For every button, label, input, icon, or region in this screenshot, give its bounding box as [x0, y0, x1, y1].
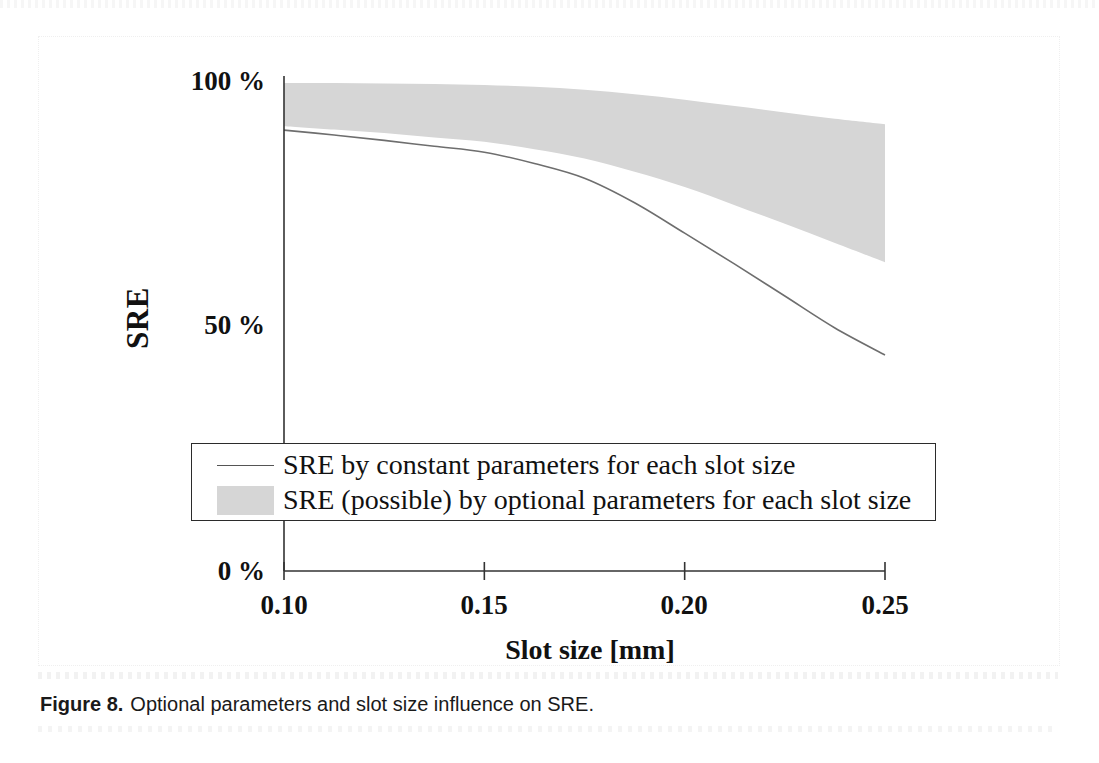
y-axis-title: SRE [120, 287, 156, 349]
y-tick-label-100: 100 % [150, 66, 265, 97]
y-tick-label-0: 0 % [150, 556, 265, 587]
figure-caption-label: Figure 8. [40, 693, 123, 715]
legend-item-possible-sre: SRE (possible) by optional parameters fo… [192, 482, 935, 518]
x-tick-label-020: 0.20 [660, 590, 707, 621]
legend-label-constant-sre: SRE by constant parameters for each slot… [283, 451, 795, 479]
x-tick-label-015: 0.15 [460, 590, 507, 621]
legend-label-possible-sre: SRE (possible) by optional parameters fo… [283, 486, 911, 514]
y-tick-label-50: 50 % [150, 310, 265, 341]
x-axis-title: Slot size [mm] [505, 634, 675, 666]
x-tick-label-010: 0.10 [260, 590, 307, 621]
figure-caption-text: Optional parameters and slot size influe… [130, 693, 594, 715]
band-area-possible-sre [284, 83, 885, 262]
figure-page: 100 % 50 % 0 % 0.10 0.15 0.20 0.25 SRE S… [0, 0, 1099, 763]
legend-line-swatch-icon [208, 465, 283, 466]
x-tick-label-025: 0.25 [861, 590, 908, 621]
legend-band-swatch-icon [208, 486, 283, 515]
legend-item-constant-sre: SRE by constant parameters for each slot… [192, 447, 935, 483]
chart-legend: SRE by constant parameters for each slot… [191, 443, 936, 521]
figure-caption: Figure 8.Optional parameters and slot si… [40, 693, 594, 716]
